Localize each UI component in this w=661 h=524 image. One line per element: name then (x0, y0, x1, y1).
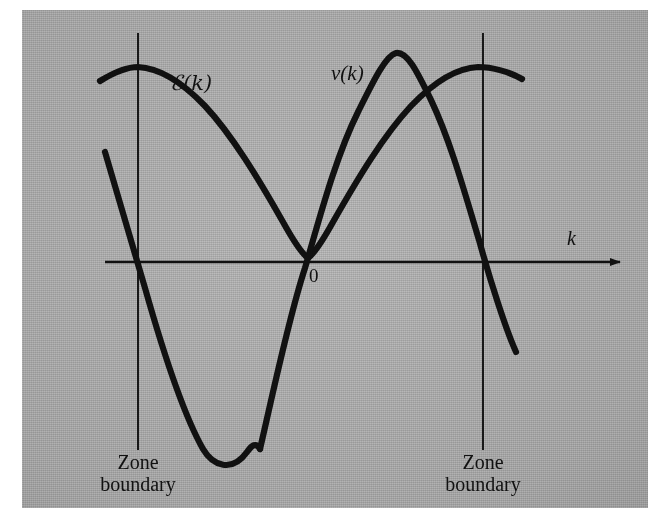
k-axis-label: k (567, 228, 576, 250)
velocity-curve-label: v(k) (331, 62, 364, 85)
zone-boundary-right-label: Zone boundary (423, 452, 543, 495)
figure-root: ℰ(k) v(k) k 0 Zone boundary Zone boundar… (0, 0, 661, 524)
zone-boundary-right-line2: boundary (423, 474, 543, 496)
velocity-left-branch (105, 152, 260, 465)
zone-boundary-left-line1: Zone (78, 452, 198, 474)
zone-boundary-left-label: Zone boundary (78, 452, 198, 495)
zone-boundary-left-line2: boundary (78, 474, 198, 496)
energy-band-curve (100, 67, 522, 258)
energy-curve-label: ℰ(k) (170, 72, 212, 95)
zone-boundary-right-line1: Zone (423, 452, 543, 474)
energy-curve-label-text: ℰ(k) (170, 71, 212, 95)
origin-label: 0 (309, 266, 319, 287)
